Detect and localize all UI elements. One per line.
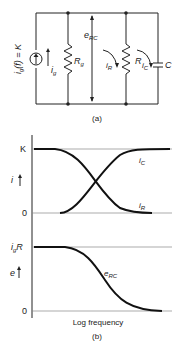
figure: ig(f) = K ig Rg eRC iR R iC C (a) K 0 i … (0, 0, 182, 352)
rg-label: Rg (74, 56, 85, 67)
zero-tick-label-top: 0 (22, 208, 27, 218)
ir-curve (34, 149, 152, 213)
k-tick-label: K (20, 144, 26, 154)
ic-label: iC (142, 61, 149, 71)
resistor-r-icon (122, 44, 130, 74)
ir-label: iR (106, 61, 113, 71)
e-axis-label: e (10, 268, 15, 278)
erc-curve-label: eRC (104, 269, 118, 279)
ig-label: ig (51, 65, 57, 76)
zero-tick-label-bottom: 0 (22, 306, 27, 316)
igr-tick-label: igR (11, 242, 23, 253)
erc-label: eRC (84, 30, 98, 41)
resistor-rg-icon (64, 44, 72, 74)
bottom-plot (32, 247, 172, 311)
c-label: C (165, 60, 172, 70)
ic-curve-label: iC (139, 156, 146, 166)
top-plot (32, 135, 172, 318)
circuit-diagram (30, 13, 163, 104)
ir-curve-label: iR (139, 201, 146, 211)
source-label: ig(f) = K (13, 43, 24, 74)
erc-curve (34, 247, 162, 311)
caption-a: (a) (92, 114, 102, 123)
caption-b: (b) (92, 332, 102, 341)
r-label: R (135, 56, 142, 66)
i-axis-label: i (11, 175, 14, 185)
x-axis-label: Log frequency (73, 318, 124, 327)
